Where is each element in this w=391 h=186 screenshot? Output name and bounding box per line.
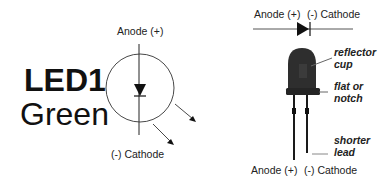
led-component-drawing xyxy=(286,48,332,160)
callout-reflector-cup: reflector cup xyxy=(334,46,376,70)
callout-line2: notch xyxy=(334,92,363,104)
led-color-label: Green xyxy=(20,96,109,133)
callout-shorter-lead: shorter lead xyxy=(334,134,370,158)
callout-line2: lead xyxy=(334,146,370,158)
bottom-cathode-label: (-) Cathode xyxy=(304,164,357,176)
bottom-anode-label: Anode (+) xyxy=(251,164,297,176)
callout-line1: shorter xyxy=(334,134,370,146)
diode-symbol-inline xyxy=(253,22,353,36)
top-anode-label: Anode (+) xyxy=(254,8,300,20)
callout-line1: reflector xyxy=(334,46,376,58)
led-schematic-symbol xyxy=(106,44,196,145)
callout-line2: cup xyxy=(334,58,376,70)
symbol-anode-label: Anode (+) xyxy=(117,25,163,37)
callout-flat-notch: flat or notch xyxy=(334,80,363,104)
led-title: LED1 xyxy=(24,62,106,99)
symbol-cathode-label: (-) Cathode xyxy=(111,148,164,160)
callout-line1: flat or xyxy=(334,80,363,92)
top-cathode-label: (-) Cathode xyxy=(307,8,360,20)
